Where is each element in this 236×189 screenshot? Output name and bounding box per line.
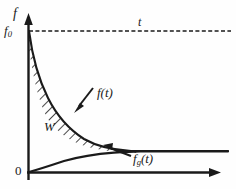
curve-f-g-t-label: fg(t) <box>133 152 153 166</box>
y-axis <box>24 13 33 180</box>
origin-label: 0 <box>15 164 22 177</box>
f0-axis-label: f0 <box>4 24 12 38</box>
shaded-area-label: W <box>44 120 55 133</box>
x-axis <box>27 168 221 177</box>
figure-container: f f0 t f(t) W fg(t) 0 <box>0 0 236 189</box>
figure-drawing <box>0 0 236 189</box>
leader-arrow-ft <box>74 88 93 113</box>
fg-argument: (t) <box>141 151 153 166</box>
y-axis-label: f <box>13 7 17 21</box>
f0-subscript: 0 <box>8 29 12 39</box>
curve-f-t <box>29 31 228 151</box>
top-line-label: t <box>138 16 141 28</box>
curve-f-t-label: f(t) <box>97 86 113 99</box>
